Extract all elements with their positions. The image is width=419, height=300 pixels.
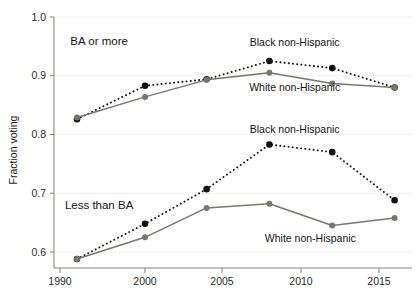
ltba-white-series-label: White non-Hispanic [265, 232, 356, 244]
data-point [392, 215, 398, 221]
ba-white-series-label: White non-Hispanic [249, 81, 340, 93]
x-tick-label-2010: 2010 [289, 275, 313, 287]
data-point [142, 82, 149, 89]
data-point [74, 114, 80, 120]
data-point [142, 94, 148, 100]
voting-fraction-line-chart: 0.60.70.80.91.0 19902000200520102015 BA … [0, 0, 419, 300]
data-point [266, 58, 273, 65]
data-point [142, 221, 149, 228]
data-point [329, 149, 336, 156]
data-point [203, 186, 210, 193]
data-point [329, 223, 335, 229]
ba-black-series-label: Black non-Hispanic [250, 36, 340, 48]
chart-background [0, 0, 419, 300]
data-point [392, 85, 398, 91]
less-than-ba-group-label: Less than BA [65, 199, 134, 211]
data-point [204, 77, 210, 83]
data-point [142, 234, 148, 240]
y-tick-label-0.9: 0.9 [31, 69, 46, 81]
data-point [74, 256, 80, 262]
x-tick-label-1990: 1990 [48, 275, 72, 287]
y-axis-title: Fraction voting [7, 115, 19, 184]
ltba-black-series-label: Black non-Hispanic [250, 123, 340, 135]
y-tick-label-0.7: 0.7 [31, 187, 46, 199]
data-point [266, 141, 273, 148]
y-tick-label-1.0: 1.0 [31, 11, 46, 23]
data-point [266, 201, 272, 207]
y-tick-label-0.6: 0.6 [31, 246, 46, 258]
x-tick-label-2005: 2005 [210, 275, 234, 287]
data-point [204, 205, 210, 211]
x-tick-label-2015: 2015 [367, 275, 391, 287]
data-point [329, 65, 336, 72]
x-tick-label-2000: 2000 [133, 275, 157, 287]
data-point [266, 70, 272, 76]
ba-or-more-group-label: BA or more [70, 35, 128, 47]
y-tick-label-0.8: 0.8 [31, 128, 46, 140]
data-point [391, 197, 398, 204]
